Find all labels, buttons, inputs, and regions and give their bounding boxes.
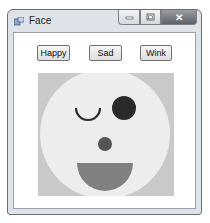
sad-button[interactable]: Sad: [89, 45, 122, 61]
minimize-button[interactable]: [118, 10, 140, 25]
title-bar[interactable]: Face ✕: [8, 10, 201, 32]
app-icon: [14, 17, 24, 26]
wink-button[interactable]: Wink: [140, 45, 172, 61]
maximize-button[interactable]: [140, 10, 161, 25]
open-eye-icon: [112, 96, 136, 120]
face-canvas: [38, 73, 174, 196]
face-window: Face ✕ Happy Sad Wink: [7, 9, 202, 215]
client-area: Happy Sad Wink: [13, 32, 196, 209]
nose-icon: [98, 137, 112, 151]
close-button[interactable]: ✕: [161, 10, 197, 25]
maximize-icon: [146, 13, 155, 21]
window-controls: ✕: [118, 10, 197, 25]
minimize-icon: [125, 14, 134, 20]
window-title: Face: [29, 15, 51, 26]
close-icon: ✕: [175, 12, 183, 23]
happy-button[interactable]: Happy: [37, 45, 70, 61]
